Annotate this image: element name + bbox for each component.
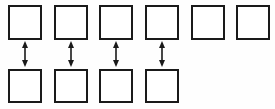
connector-2-head-up	[68, 41, 74, 48]
top-box-2[interactable]	[54, 5, 88, 40]
connector-2	[66, 41, 76, 67]
connector-2-head-down	[68, 60, 74, 67]
bottom-box-4[interactable]	[145, 69, 179, 103]
connector-3-head-down	[113, 60, 119, 67]
bottom-box-2[interactable]	[54, 69, 88, 103]
top-box-3[interactable]	[99, 5, 133, 40]
connector-4	[157, 41, 167, 67]
top-box-1[interactable]	[8, 5, 42, 40]
connector-3-head-up	[113, 41, 119, 48]
top-box-4[interactable]	[145, 5, 179, 40]
connector-1-head-down	[22, 60, 28, 67]
connector-1-head-up	[22, 41, 28, 48]
bottom-box-3[interactable]	[99, 69, 133, 103]
top-box-5[interactable]	[191, 5, 225, 40]
connector-3	[111, 41, 121, 67]
connector-4-head-up	[159, 41, 165, 48]
connector-4-head-down	[159, 60, 165, 67]
top-box-6[interactable]	[236, 5, 270, 40]
diagram-canvas	[0, 0, 275, 109]
bottom-box-1[interactable]	[8, 69, 42, 103]
connector-1	[20, 41, 30, 67]
